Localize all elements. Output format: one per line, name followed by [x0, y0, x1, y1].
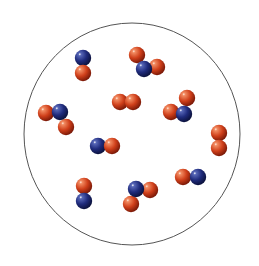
oxygen-atom-icon — [58, 119, 74, 135]
molecule-no — [75, 50, 91, 81]
nitrogen-atom-icon — [90, 138, 106, 154]
nitrogen-atom-icon — [128, 181, 144, 197]
molecules-group — [38, 47, 227, 212]
oxygen-atom-icon — [38, 105, 54, 121]
molecule-no2 — [38, 104, 74, 135]
molecule-no2 — [123, 181, 158, 212]
oxygen-atom-icon — [125, 94, 141, 110]
molecule-no — [76, 178, 92, 209]
molecule-no2 — [163, 90, 195, 122]
molecule-o2 — [211, 125, 227, 156]
nitrogen-atom-icon — [136, 61, 152, 77]
nitrogen-atom-icon — [176, 106, 192, 122]
molecule-o2 — [112, 94, 141, 110]
nitrogen-atom-icon — [75, 50, 91, 66]
oxygen-atom-icon — [211, 140, 227, 156]
oxygen-atom-icon — [179, 90, 195, 106]
nitrogen-atom-icon — [190, 169, 206, 185]
nitrogen-atom-icon — [52, 104, 68, 120]
nitrogen-atom-icon — [76, 193, 92, 209]
molecule-no2 — [129, 47, 165, 77]
oxygen-atom-icon — [75, 65, 91, 81]
diagram-canvas — [0, 0, 259, 266]
molecule-no — [175, 169, 206, 185]
oxygen-atom-icon — [129, 47, 145, 63]
molecule-no — [90, 138, 120, 154]
oxygen-atom-icon — [175, 169, 191, 185]
oxygen-atom-icon — [142, 182, 158, 198]
oxygen-atom-icon — [123, 196, 139, 212]
oxygen-atom-icon — [211, 125, 227, 141]
particle-diagram — [0, 0, 259, 266]
oxygen-atom-icon — [104, 138, 120, 154]
oxygen-atom-icon — [76, 178, 92, 194]
